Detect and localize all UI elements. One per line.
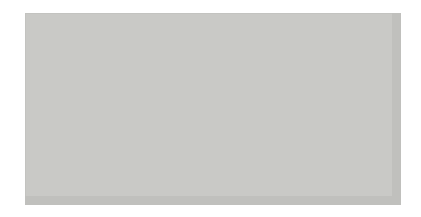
board-edge-bottom — [25, 196, 401, 205]
board-edge-right — [392, 13, 401, 205]
go-board-figure — [0, 0, 421, 217]
board-surface — [25, 13, 401, 205]
